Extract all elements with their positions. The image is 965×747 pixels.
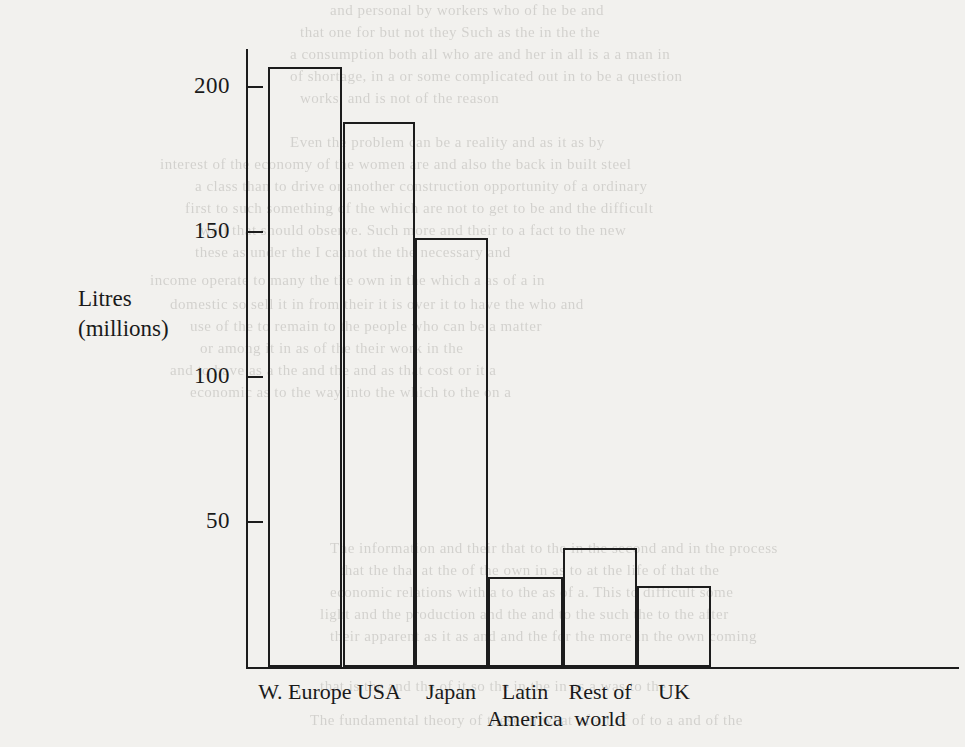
x-axis-line [246,667,959,669]
y-axis-tick-200 [248,86,263,88]
bar-latin-america [488,577,563,667]
y-axis-tick-label-50: 50 [80,509,230,532]
y-axis-tick-label-100: 100 [80,364,230,387]
bar-chart-figure: Litres (millions) 50100150200 W. EuropeU… [40,16,965,747]
y-axis-tick-150 [248,231,263,233]
bar-usa [343,122,415,667]
y-axis-title-line-2: (millions) [78,314,169,344]
bar-japan [415,238,488,667]
y-axis-tick-label-200: 200 [80,74,230,97]
y-axis-tick-100 [248,376,263,378]
y-axis-title: Litres (millions) [78,284,169,344]
plot-area: Litres (millions) 50100150200 W. EuropeU… [40,16,965,747]
x-axis-label-line: world [520,705,680,732]
bar-rest-of-world [563,548,637,667]
y-axis-title-line-1: Litres [78,284,169,314]
bar-uk [637,586,711,667]
x-axis-label-uk: UK [594,678,754,705]
y-axis-line [246,49,248,669]
x-axis-label-line: UK [594,678,754,705]
y-axis-tick-label-150: 150 [80,219,230,242]
y-axis-tick-50 [248,521,263,523]
bar-w-europe [268,67,342,667]
